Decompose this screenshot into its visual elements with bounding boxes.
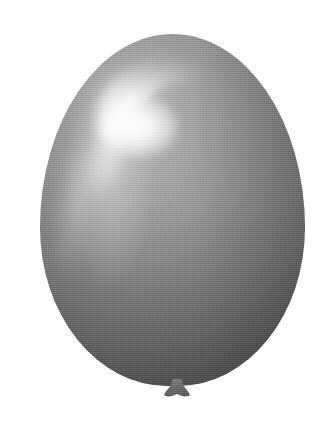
balloon-right-shading xyxy=(40,34,305,386)
balloon xyxy=(0,0,330,422)
balloon-bottom-shading xyxy=(40,34,305,386)
image-canvas xyxy=(0,0,330,422)
balloon-body xyxy=(40,34,305,386)
